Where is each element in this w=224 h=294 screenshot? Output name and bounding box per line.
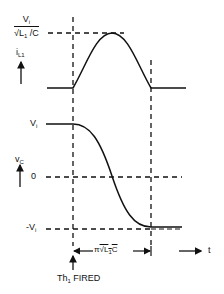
voltage-high-label: Vi bbox=[30, 119, 37, 129]
interval-label: π√L1C bbox=[94, 246, 118, 255]
voltage-low-label: -Vi bbox=[26, 223, 36, 233]
voltage-axis-label: vC bbox=[15, 155, 24, 165]
fired-event-label: Th1 FIRED bbox=[57, 274, 100, 284]
current-waveform bbox=[47, 33, 186, 88]
zero-level-label: 0 bbox=[31, 172, 36, 181]
current-axis-label: iL1 bbox=[16, 48, 25, 58]
peak-current-numerator: Vi bbox=[14, 14, 39, 27]
voltage-waveform bbox=[46, 124, 182, 227]
peak-current-denominator: √L1 /C bbox=[14, 27, 39, 39]
peak-current-label: Vi √L1 /C bbox=[14, 14, 39, 39]
time-label: t bbox=[208, 246, 211, 255]
